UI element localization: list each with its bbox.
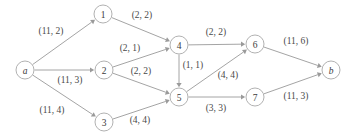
edge-label-4-5: (1, 1) bbox=[183, 60, 204, 71]
node-label-1: 1 bbox=[101, 10, 106, 20]
node-a[interactable]: a bbox=[16, 61, 34, 79]
edge-1-to-4 bbox=[112, 18, 166, 40]
arrow-head-icon-a-1 bbox=[90, 20, 95, 25]
node-label-4: 4 bbox=[177, 41, 182, 51]
edge-label-a-2: (11, 3) bbox=[58, 75, 83, 86]
node-label-7: 7 bbox=[253, 93, 258, 103]
edge-label-1-4: (2, 2) bbox=[132, 10, 153, 21]
arrow-head-icon-a-2 bbox=[90, 67, 94, 72]
node-label-5: 5 bbox=[177, 93, 182, 103]
node-label-a: a bbox=[23, 66, 28, 76]
arrow-head-icon-4-6 bbox=[241, 42, 245, 47]
edge-labels-layer: (11, 2)(11, 3)(11, 4)(2, 2)(2, 1)(2, 2)(… bbox=[39, 10, 309, 126]
edge-label-2-4: (2, 1) bbox=[120, 43, 141, 54]
node-2[interactable]: 2 bbox=[95, 61, 113, 79]
edge-label-a-3: (11, 4) bbox=[40, 105, 65, 116]
graph-figure: (11, 2)(11, 3)(11, 4)(2, 2)(2, 1)(2, 2)(… bbox=[0, 0, 351, 139]
edge-label-7-b: (11, 3) bbox=[284, 91, 309, 102]
node-1[interactable]: 1 bbox=[94, 5, 112, 23]
edge-label-2-5: (2, 2) bbox=[131, 66, 152, 77]
node-label-b: b bbox=[329, 66, 334, 76]
arrow-head-icon-4-5 bbox=[176, 83, 181, 87]
edge-4-to-6 bbox=[188, 44, 241, 45]
arrow-head-icon-5-7 bbox=[241, 94, 245, 99]
node-label-3: 3 bbox=[102, 118, 107, 128]
node-4[interactable]: 4 bbox=[170, 36, 188, 54]
node-3[interactable]: 3 bbox=[95, 113, 113, 131]
edge-label-6-b: (11, 6) bbox=[284, 36, 309, 47]
edge-label-a-1: (11, 2) bbox=[39, 26, 64, 37]
graph-canvas: (11, 2)(11, 3)(11, 4)(2, 2)(2, 1)(2, 2)(… bbox=[0, 0, 351, 139]
edge-6-to-b bbox=[264, 47, 318, 65]
node-6[interactable]: 6 bbox=[246, 35, 264, 53]
edge-label-5-7: (3, 3) bbox=[206, 103, 227, 114]
edge-2-to-5 bbox=[113, 73, 166, 92]
node-7[interactable]: 7 bbox=[246, 88, 264, 106]
arrow-head-icon-5-6 bbox=[242, 50, 247, 55]
edge-label-4-6: (2, 2) bbox=[206, 27, 227, 38]
edge-label-5-6: (4, 4) bbox=[218, 70, 239, 81]
node-5[interactable]: 5 bbox=[170, 88, 188, 106]
node-label-6: 6 bbox=[253, 40, 258, 50]
nodes-layer: a1234567b bbox=[16, 5, 340, 131]
node-label-2: 2 bbox=[102, 66, 107, 76]
node-b[interactable]: b bbox=[322, 61, 340, 79]
edge-label-3-5: (4, 4) bbox=[130, 115, 151, 126]
